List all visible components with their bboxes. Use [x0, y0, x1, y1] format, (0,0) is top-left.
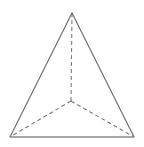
solid-edges-group: [10, 13, 134, 137]
edge-apex-to-back: [71, 13, 72, 101]
figure-canvas: [0, 0, 144, 147]
hidden-edges-group: [10, 13, 134, 137]
tetrahedron-svg: [0, 0, 144, 147]
edge-apex-to-front-left: [10, 13, 72, 137]
edge-apex-to-front-right: [72, 13, 134, 137]
